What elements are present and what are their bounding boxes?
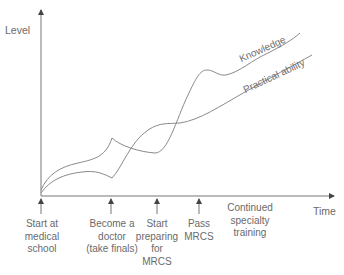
career-progression-diagram: Level Time Knowledge Practical ability S… xyxy=(0,0,344,275)
y-axis-label: Level xyxy=(5,24,30,36)
milestone-line: training xyxy=(220,227,280,240)
knowledge-curve xyxy=(41,33,300,190)
milestone-line: medical xyxy=(14,231,70,244)
milestone-line: Continued xyxy=(220,202,280,215)
milestone-label-pass-mrcs: Pass MRCS xyxy=(180,218,218,243)
milestone-label-start-preparing-mrcs: Start preparing for MRCS xyxy=(132,218,182,268)
milestone-line: specialty xyxy=(220,215,280,228)
x-axis-label: Time xyxy=(313,205,336,217)
milestone-line: MRCS xyxy=(132,256,182,269)
milestone-line: for xyxy=(132,243,182,256)
milestone-line: Pass xyxy=(180,218,218,231)
milestone-label-continued-specialty-training: Continued specialty training xyxy=(220,202,280,240)
milestone-line: Start at xyxy=(14,218,70,231)
milestone-line: school xyxy=(14,243,70,256)
milestone-line: Start xyxy=(132,218,182,231)
milestone-line: preparing xyxy=(132,231,182,244)
milestone-label-start-medical-school: Start at medical school xyxy=(14,218,70,256)
milestone-line: MRCS xyxy=(180,231,218,244)
